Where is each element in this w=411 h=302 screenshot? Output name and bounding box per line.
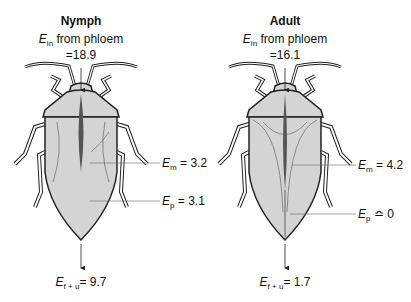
adult-input-value: =16.1	[215, 48, 355, 62]
adult-output-label: Ef + u= 1.7	[215, 275, 355, 291]
nymph-em-label: Em = 3.2	[162, 156, 207, 172]
nymph-ep-label: Ep = 3.1	[162, 194, 205, 210]
nymph-input-value: =18.9	[11, 48, 151, 62]
nymph-output-label: Ef + u= 9.7	[11, 275, 151, 291]
nymph-input-label: Ein from phloem	[11, 32, 151, 48]
nymph-title: Nymph	[21, 14, 141, 28]
adult-title: Adult	[225, 14, 345, 28]
adult-input-label: Ein from phloem	[215, 32, 355, 48]
adult-em-label: Em = 4.2	[358, 158, 403, 174]
adult-ep-label: Ep ≏ 0	[358, 207, 394, 223]
